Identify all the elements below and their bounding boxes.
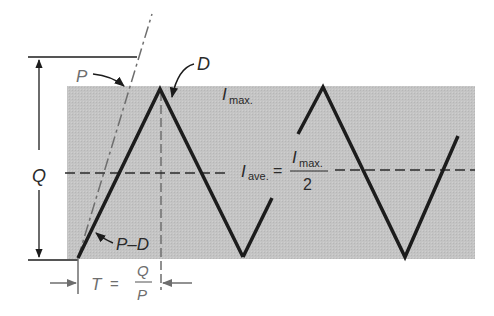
svg-text:Q: Q [137, 262, 149, 279]
p-pointer-arrow [93, 74, 124, 86]
d-label: D [197, 54, 210, 74]
svg-text:max.: max. [299, 157, 323, 169]
svg-text:I: I [241, 162, 246, 181]
svg-text:I: I [292, 148, 297, 167]
t-dimension: T = Q P [50, 258, 192, 303]
svg-text:T: T [91, 275, 103, 294]
svg-text:max.: max. [229, 94, 253, 106]
svg-text:=: = [273, 162, 282, 179]
svg-text:I: I [222, 85, 227, 104]
p-label: P [76, 67, 88, 86]
svg-text:ave.: ave. [248, 170, 269, 182]
p-minus-d-label: P–D [116, 235, 149, 254]
svg-text:=: = [110, 275, 119, 292]
inventory-diagram: Q P D I max. I ave. = I max. 2 P–D T = Q [0, 0, 494, 316]
q-label: Q [32, 166, 46, 186]
svg-text:2: 2 [303, 176, 312, 193]
i-ave-formula: I ave. = I max. 2 [236, 146, 334, 194]
svg-text:P: P [137, 286, 147, 303]
